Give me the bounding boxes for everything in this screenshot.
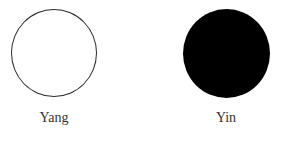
yin-circle (183, 9, 270, 98)
yin-label: Yin (186, 110, 266, 126)
yang-circle (11, 9, 97, 97)
yang-label: Yang (14, 110, 94, 126)
